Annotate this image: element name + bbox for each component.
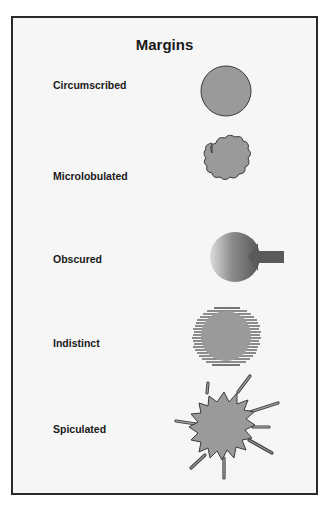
starburst-spiculated-icon	[176, 376, 278, 478]
circle-smooth-icon	[201, 66, 251, 116]
hatched-circle-icon	[192, 308, 261, 365]
shapes-canvas	[0, 0, 328, 505]
shaded-circle-with-arrow-icon	[210, 232, 284, 282]
caption-cutoff	[8, 497, 320, 503]
cloud-lobulated-icon	[204, 135, 251, 179]
